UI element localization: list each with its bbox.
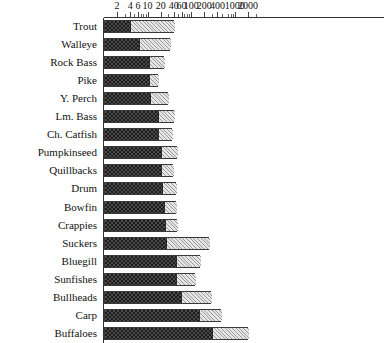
bar-row: Trout xyxy=(0,18,388,36)
category-label: Y. Perch xyxy=(60,92,97,105)
bar-segment-dark xyxy=(105,93,151,104)
x-axis-minor-tick xyxy=(184,14,185,17)
bar-segment-light xyxy=(151,93,169,104)
log-bar-chart: 2461020406010020040010002000 TroutWalley… xyxy=(0,0,388,343)
x-axis-tick-label: 2 xyxy=(115,0,120,11)
bar-segment-dark xyxy=(105,202,165,213)
category-label: Bullheads xyxy=(53,291,97,304)
bar-segment-light xyxy=(163,183,177,194)
x-axis-minor-tick xyxy=(256,14,257,17)
bar-segment-light xyxy=(177,274,197,285)
bar-segment-light xyxy=(159,129,173,140)
category-label: Pumpkinseed xyxy=(38,146,97,159)
bar-segment-light xyxy=(131,21,175,32)
category-label: Buffaloes xyxy=(54,327,97,340)
bar-segment-dark xyxy=(105,274,177,285)
x-axis-minor-tick xyxy=(212,14,213,17)
x-axis-minor-tick xyxy=(141,14,142,17)
x-axis-tick xyxy=(174,12,175,17)
bar-row: Sunfishes xyxy=(0,271,388,289)
bar-row: Ch. Catfish xyxy=(0,126,388,144)
stacked-bar xyxy=(104,110,174,123)
x-axis-tick-label: 4 xyxy=(128,0,133,11)
x-axis: 2461020406010020040010002000 xyxy=(0,0,388,18)
bar-row: Walleye xyxy=(0,36,388,54)
bar-segment-light xyxy=(162,165,174,176)
bar-segment-dark xyxy=(105,256,177,267)
x-axis-minor-tick xyxy=(222,14,223,17)
bar-segment-dark xyxy=(105,165,162,176)
category-label: Suckers xyxy=(62,237,97,250)
x-axis-tick xyxy=(182,12,183,17)
category-label: Quillbacks xyxy=(49,164,97,177)
stacked-bar xyxy=(104,237,209,250)
category-label: Crappies xyxy=(58,219,97,232)
stacked-bar xyxy=(104,255,200,268)
bar-row: Buffaloes xyxy=(0,325,388,343)
stacked-bar xyxy=(104,219,177,232)
bar-segment-dark xyxy=(105,57,150,68)
category-label: Carp xyxy=(76,309,97,322)
bar-row: Bowfin xyxy=(0,199,388,217)
stacked-bar xyxy=(104,128,172,141)
bar-row: Quillbacks xyxy=(0,162,388,180)
category-label: Bluegill xyxy=(62,255,97,268)
x-axis-tick xyxy=(138,12,139,17)
bar-row: Carp xyxy=(0,307,388,325)
x-axis-tick xyxy=(148,12,149,17)
x-axis-minor-tick xyxy=(146,14,147,17)
x-axis-minor-tick xyxy=(228,14,229,17)
bar-segment-dark xyxy=(105,220,166,231)
stacked-bar xyxy=(104,291,211,304)
bar-segment-dark xyxy=(105,238,167,249)
bar-row: Y. Perch xyxy=(0,90,388,108)
x-axis-tick xyxy=(117,12,118,17)
bar-row: Pumpkinseed xyxy=(0,144,388,162)
bar-segment-dark xyxy=(105,328,213,339)
bar-segment-light xyxy=(200,310,222,321)
bar-row: Lm. Bass xyxy=(0,108,388,126)
x-axis-minor-tick xyxy=(125,14,126,17)
stacked-bar xyxy=(104,309,221,322)
bar-segment-light xyxy=(166,220,178,231)
bar-segment-light xyxy=(162,147,179,158)
stacked-bar xyxy=(104,146,177,159)
bar-segment-dark xyxy=(105,310,200,321)
category-label: Sunfishes xyxy=(54,273,97,286)
bar-row: Bullheads xyxy=(0,289,388,307)
bar-segment-light xyxy=(150,75,159,86)
stacked-bar xyxy=(104,74,158,87)
x-axis-minor-tick xyxy=(231,14,232,17)
x-axis-minor-tick xyxy=(187,14,188,17)
x-axis-tick xyxy=(191,12,192,17)
category-label: Trout xyxy=(73,20,97,33)
bar-row: Rock Bass xyxy=(0,54,388,72)
bar-segment-dark xyxy=(105,147,162,158)
stacked-bar xyxy=(104,92,168,105)
stacked-bar xyxy=(104,164,173,177)
x-axis-tick-label: 20 xyxy=(156,0,166,11)
x-axis-tick xyxy=(204,12,205,17)
bar-row: Suckers xyxy=(0,235,388,253)
category-label: Rock Bass xyxy=(50,56,97,69)
stacked-bar xyxy=(104,182,176,195)
stacked-bar xyxy=(104,20,174,33)
x-axis-tick xyxy=(161,12,162,17)
x-axis-minor-tick xyxy=(189,14,190,17)
bar-row: Bluegill xyxy=(0,253,388,271)
category-label: Pike xyxy=(77,74,97,87)
x-axis-minor-tick xyxy=(143,14,144,17)
x-axis-tick-label: 400 xyxy=(210,0,225,11)
plot-area: TroutWalleyeRock BassPikeY. PerchLm. Bas… xyxy=(0,18,388,343)
x-axis-tick-label: 6 xyxy=(135,0,140,11)
bar-segment-light xyxy=(213,328,249,339)
bar-row: Drum xyxy=(0,180,388,198)
bar-segment-light xyxy=(159,111,175,122)
category-label: Walleye xyxy=(61,38,97,51)
stacked-bar xyxy=(104,56,164,69)
x-axis-tick xyxy=(130,12,131,17)
x-axis-minor-tick xyxy=(178,14,179,17)
x-axis-tick xyxy=(248,12,249,17)
bar-segment-light xyxy=(182,292,212,303)
bar-segment-dark xyxy=(105,21,131,32)
